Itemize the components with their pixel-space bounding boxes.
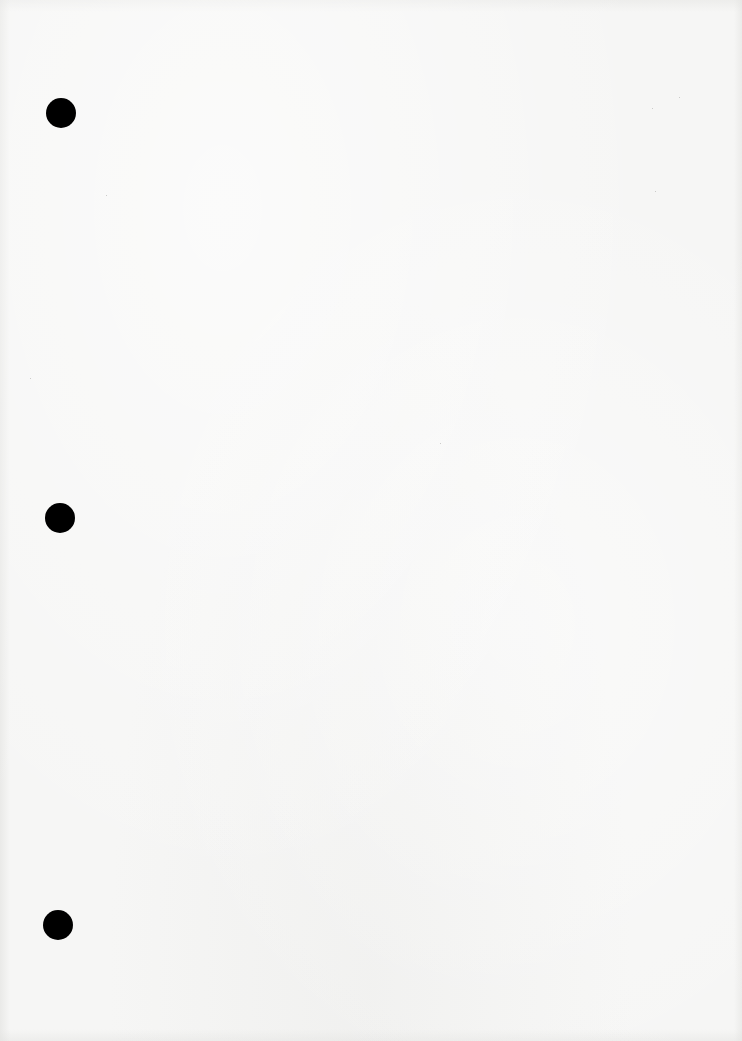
paper-speck [30,378,31,379]
paper-speck [652,108,653,109]
paper-speck [655,191,656,192]
punch-hole-top [46,98,76,128]
paper-speck [440,443,441,444]
punch-hole-bottom [43,910,73,940]
paper-speck [106,195,107,196]
blank-paper-page [0,0,742,1041]
punch-hole-middle [45,503,75,533]
paper-speck [679,97,680,98]
